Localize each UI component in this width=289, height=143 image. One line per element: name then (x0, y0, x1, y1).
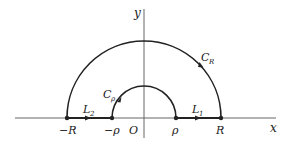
label-l1-sub: 1 (199, 110, 203, 118)
y-axis-label: y (133, 6, 141, 20)
origin-label: O (129, 124, 138, 137)
diagram-canvas: y x O −R −ρ ρ R C R C ρ L 2 L 1 (0, 0, 289, 143)
x-axis-label: x (270, 121, 277, 135)
label-l1: L 1 (191, 103, 203, 118)
label-c-rho: C ρ (103, 88, 116, 103)
point-rho (174, 116, 178, 120)
label-l2: L 2 (82, 103, 95, 118)
label-c-r-sub: R (208, 58, 215, 66)
label-rho: ρ (171, 124, 179, 137)
label-c-r: C R (201, 51, 215, 66)
label-neg-r: −R (59, 124, 77, 137)
label-r: R (215, 124, 224, 137)
label-l2-sub: 2 (89, 110, 95, 118)
label-neg-rho: −ρ (104, 124, 120, 137)
label-c-rho-sub: ρ (110, 95, 116, 103)
point-r (219, 116, 223, 120)
point-neg-r (65, 116, 69, 120)
contour-diagram: y x O −R −ρ ρ R C R C ρ L 2 L 1 (0, 0, 289, 143)
point-neg-rho (110, 116, 114, 120)
